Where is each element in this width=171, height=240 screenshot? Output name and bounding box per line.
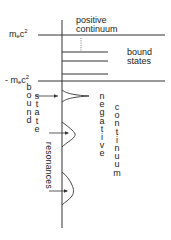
- arrow-head-icon: [64, 189, 68, 192]
- lower-energy-sup: 2: [26, 74, 29, 80]
- vertical-letter: m: [113, 169, 121, 177]
- vertical-letter: e: [99, 149, 104, 157]
- bound-state-peak: [62, 90, 89, 102]
- resonances-label: resonances: [44, 142, 54, 189]
- bound-vertical-label: bound: [25, 83, 33, 124]
- lower-energy-m: - m: [5, 75, 18, 85]
- negative-vertical-label: negative: [98, 92, 106, 158]
- arrow-head-icon: [54, 94, 58, 97]
- upper-energy-m: m: [9, 29, 17, 39]
- resonance-peak-2: [62, 172, 74, 205]
- state-vertical-label: state: [33, 92, 41, 133]
- positive-continuum-label-line2: continuum: [76, 25, 118, 34]
- bound-states-label-line2: states: [127, 57, 151, 66]
- continuum-vertical-label: continuum: [113, 103, 121, 177]
- upper-energy-sup: 2: [24, 28, 27, 34]
- resonance-peak-1: [62, 122, 75, 147]
- vertical-letter: e: [34, 125, 39, 133]
- upper-energy-label: mec2: [9, 27, 28, 41]
- vertical-letter: d: [26, 116, 31, 124]
- arrow-head-icon: [65, 131, 69, 134]
